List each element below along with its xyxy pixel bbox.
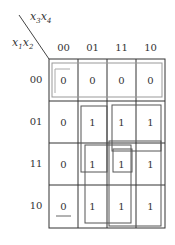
row-label-00: 00: [26, 74, 46, 85]
col-label-00: 00: [49, 42, 78, 53]
cell-01-10: 1: [136, 101, 165, 143]
cell-00-00: 0: [49, 59, 78, 101]
col-label-01: 01: [78, 42, 107, 53]
cell-11-11: 1: [107, 143, 136, 185]
row-label-01: 01: [26, 116, 46, 127]
cell-01-00: 0: [49, 101, 78, 143]
row-label-11: 11: [26, 158, 46, 169]
cell-00-10: 0: [136, 59, 165, 101]
cell-00-01: 0: [78, 59, 107, 101]
cell-10-01: 1: [78, 185, 107, 227]
column-variables-label: x3x4: [30, 10, 51, 25]
cell-00-11: 0: [107, 59, 136, 101]
col-label-10: 10: [136, 42, 165, 53]
cell-01-01: 1: [78, 101, 107, 143]
cell-11-10: 1: [136, 143, 165, 185]
col-label-11: 11: [107, 42, 136, 53]
cell-10-10: 1: [136, 185, 165, 227]
cell-11-01: 1: [78, 143, 107, 185]
cell-01-11: 1: [107, 101, 136, 143]
cell-10-00: 0: [49, 185, 78, 227]
row-variables-label: x1x2: [12, 36, 33, 51]
cell-10-11: 1: [107, 185, 136, 227]
cell-11-00: 0: [49, 143, 78, 185]
row-label-10: 10: [26, 200, 46, 211]
